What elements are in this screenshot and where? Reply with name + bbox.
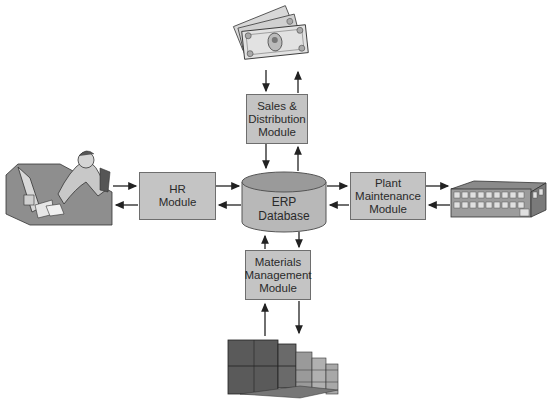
sales-distribution-module: Sales & Distribution Module	[246, 94, 308, 144]
materials-module-label: Materials Management Module	[244, 256, 311, 295]
factory-building-icon	[451, 181, 546, 217]
erp-database-label: ERP Database	[242, 195, 326, 223]
hr-module-label: HR Module	[159, 183, 197, 209]
plant-maintenance-module: Plant Maintenance Module	[350, 172, 426, 220]
money-icon	[233, 6, 308, 60]
hr-module: HR Module	[139, 172, 216, 220]
office-worker-icon	[6, 151, 112, 225]
inventory-boxes-icon	[228, 340, 338, 398]
sales-module-label: Sales & Distribution Module	[248, 100, 306, 139]
materials-management-module: Materials Management Module	[245, 250, 311, 300]
plant-module-label: Plant Maintenance Module	[355, 177, 421, 216]
